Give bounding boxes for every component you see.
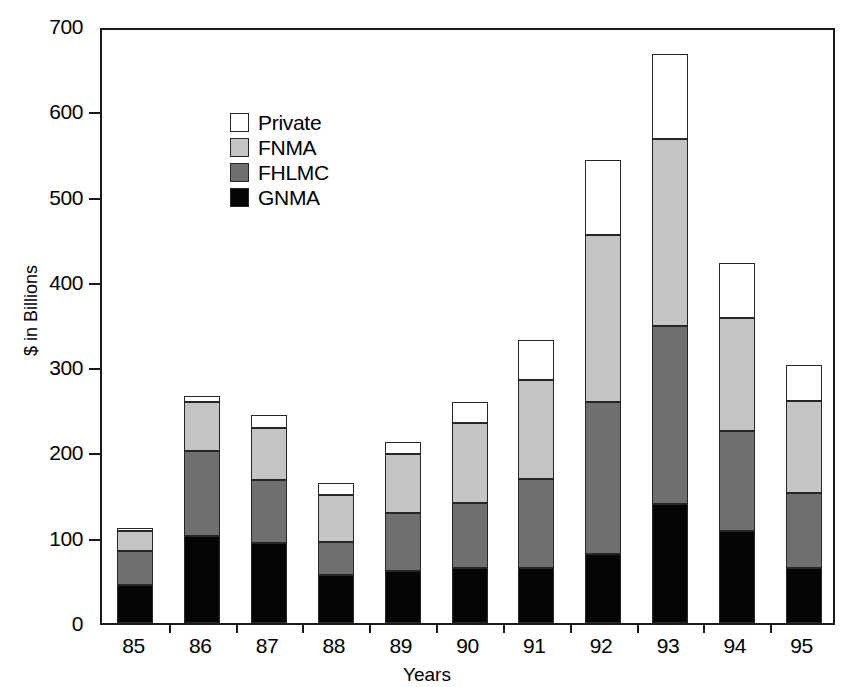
bar-segment-private (518, 340, 554, 380)
light-gray-swatch (230, 138, 249, 157)
bar-segment-private (786, 365, 822, 402)
bar-segment-gnma (251, 543, 287, 623)
bar-segment-private (117, 528, 153, 531)
bar-group (318, 483, 354, 623)
bar-segment-fnma (117, 531, 153, 551)
bar-segment-fnma (652, 139, 688, 327)
bar-group (719, 263, 755, 623)
bar-segment-fhlmc (251, 480, 287, 543)
legend-item[interactable]: GNMA (230, 185, 329, 210)
bar-segment-fhlmc (452, 503, 488, 569)
y-tick-mark (89, 112, 100, 114)
bar-segment-gnma (786, 568, 822, 623)
bar-group (452, 402, 488, 623)
bar-segment-fhlmc (518, 479, 554, 568)
black-swatch (230, 188, 249, 207)
bar-group (184, 396, 220, 623)
legend-label: Private (258, 112, 321, 133)
bar-segment-gnma (585, 554, 621, 623)
bar-segment-fnma (385, 454, 421, 513)
y-tick-mark (89, 368, 100, 370)
bar-segment-private (318, 483, 354, 495)
y-tick-label: 600 (49, 100, 83, 124)
bar-segment-private (719, 263, 755, 318)
bar-segment-fhlmc (318, 542, 354, 575)
x-tick-label: 95 (768, 634, 835, 658)
x-axis-title: Years (0, 664, 854, 686)
bar-segment-fnma (585, 235, 621, 402)
x-tick-label: 90 (434, 634, 501, 658)
y-tick-label: 0 (72, 612, 83, 636)
y-tick-mark (89, 539, 100, 541)
x-tick-mark (369, 623, 371, 633)
y-tick-label: 500 (49, 186, 83, 210)
x-tick-label: 93 (635, 634, 702, 658)
bars-layer (102, 30, 833, 623)
white-swatch (230, 113, 249, 132)
x-tick-mark (302, 623, 304, 633)
bar-segment-fhlmc (719, 431, 755, 531)
bar-group (385, 442, 421, 623)
bar-segment-gnma (385, 571, 421, 623)
bar-segment-gnma (652, 504, 688, 623)
bar-segment-private (251, 415, 287, 428)
legend-label: GNMA (258, 187, 320, 208)
y-tick-label: 700 (49, 15, 83, 39)
x-tick-label: 85 (100, 634, 167, 658)
bar-segment-fhlmc (184, 451, 220, 536)
x-tick-label: 91 (501, 634, 568, 658)
bar-group (786, 365, 822, 623)
bar-group (652, 54, 688, 623)
bar-segment-fhlmc (117, 551, 153, 585)
stacked-bar-chart: $ in Billions 0100200300400500600700 Pri… (0, 0, 854, 687)
bar-segment-private (385, 442, 421, 454)
legend-item[interactable]: Private (230, 110, 329, 135)
bar-segment-gnma (452, 568, 488, 623)
bar-segment-fnma (719, 318, 755, 431)
legend-label: FNMA (258, 137, 316, 158)
legend-item[interactable]: FNMA (230, 135, 329, 160)
x-tick-label: 94 (701, 634, 768, 658)
bar-segment-fhlmc (585, 402, 621, 554)
x-tick-mark (703, 623, 705, 633)
y-tick-mark (89, 283, 100, 285)
x-tick-label: 89 (367, 634, 434, 658)
bar-segment-fnma (452, 423, 488, 503)
y-tick-label: 400 (49, 271, 83, 295)
legend-item[interactable]: FHLMC (230, 160, 329, 185)
legend-label: FHLMC (258, 162, 329, 183)
x-tick-mark (637, 623, 639, 633)
bar-segment-private (585, 160, 621, 235)
bar-group (117, 528, 153, 623)
bar-segment-fnma (251, 428, 287, 480)
bar-segment-gnma (318, 575, 354, 623)
x-tick-label: 92 (568, 634, 635, 658)
y-tick-label: 200 (49, 441, 83, 465)
bar-segment-private (452, 402, 488, 422)
bar-segment-fnma (786, 401, 822, 493)
x-tick-label: 87 (234, 634, 301, 658)
y-tick-mark (89, 453, 100, 455)
bar-segment-fhlmc (385, 513, 421, 571)
bar-segment-private (184, 396, 220, 402)
dark-gray-swatch (230, 163, 249, 182)
bar-segment-gnma (184, 536, 220, 623)
y-tick-label: 100 (49, 527, 83, 551)
bar-segment-fhlmc (786, 493, 822, 568)
bar-segment-private (652, 54, 688, 138)
x-tick-mark (570, 623, 572, 633)
x-tick-mark (436, 623, 438, 633)
bar-segment-gnma (719, 531, 755, 623)
x-tick-mark (503, 623, 505, 633)
x-tick-label: 86 (167, 634, 234, 658)
bar-group (585, 160, 621, 623)
x-tick-label: 88 (300, 634, 367, 658)
bar-group (251, 415, 287, 623)
bar-segment-fnma (184, 402, 220, 451)
x-tick-mark (169, 623, 171, 633)
y-tick-label: 300 (49, 356, 83, 380)
bar-segment-fnma (318, 495, 354, 542)
y-axis-title: $ in Billions (21, 265, 42, 356)
chart-legend: PrivateFNMAFHLMCGNMA (230, 110, 329, 210)
y-tick-mark (89, 198, 100, 200)
